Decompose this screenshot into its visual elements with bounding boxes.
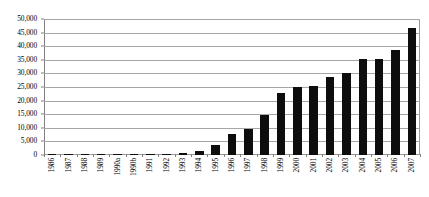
y-axis-tick-label: 45,000: [17, 29, 37, 36]
x-axis-tick-label: 1987: [65, 158, 72, 172]
x-axis-tick: [322, 154, 323, 157]
x-axis-tick-label: 1986: [48, 158, 55, 172]
y-axis-tick-label: 5,000: [21, 138, 37, 145]
x-axis-tick: [109, 154, 110, 157]
x-axis-tick-label: 1989: [97, 158, 104, 172]
y-axis-tick-label: 25,000: [17, 83, 37, 90]
bar: [359, 59, 368, 155]
x-axis-tick-label: 1994: [195, 158, 202, 172]
x-axis-tick: [142, 154, 143, 157]
y-axis-tick-label: 50,000: [17, 15, 37, 22]
y-axis-tick-label: 10,000: [17, 124, 37, 131]
y-axis-tick-label: 15,000: [17, 110, 37, 117]
x-axis-tick-label: 1998: [261, 158, 268, 172]
x-axis-tick: [224, 154, 225, 157]
x-axis-tick-label: 1988: [81, 158, 88, 172]
bar: [408, 28, 417, 155]
x-axis-tick-label: 1990b: [130, 158, 137, 176]
x-axis-tick: [371, 154, 372, 157]
x-axis-tick: [404, 154, 405, 157]
x-axis-tick: [306, 154, 307, 157]
x-axis-tick: [420, 154, 421, 157]
x-axis-tick: [60, 154, 61, 157]
bar: [228, 134, 237, 155]
x-axis-tick-label: 2004: [359, 158, 366, 172]
bar: [244, 129, 253, 155]
x-axis-tick-label: 2003: [342, 158, 349, 172]
x-axis-labels: 19861987198819891990a1990b19911992199319…: [44, 158, 420, 197]
bar: [293, 87, 302, 155]
y-axis-tick-label: 20,000: [17, 97, 37, 104]
x-axis-tick: [289, 154, 290, 157]
y-axis-labels: 50,00045,00040,00035,00030,00025,00020,0…: [0, 0, 44, 197]
x-axis-tick: [77, 154, 78, 157]
x-axis-tick-label: 1991: [146, 158, 153, 172]
x-axis-tick-label: 1996: [228, 158, 235, 172]
y-axis-tick-label: 30,000: [17, 70, 37, 77]
x-axis-tick: [44, 154, 45, 157]
bar-chart: 50,00045,00040,00035,00030,00025,00020,0…: [0, 0, 429, 197]
x-axis-tick: [387, 154, 388, 157]
x-axis-tick: [191, 154, 192, 157]
x-axis-tick-label: 2005: [375, 158, 382, 172]
x-axis-tick-label: 2001: [310, 158, 317, 172]
bar: [309, 86, 318, 155]
y-axis-tick-label: 0: [33, 151, 37, 158]
x-axis-tick-label: 1990a: [114, 158, 121, 176]
x-axis-tick: [207, 154, 208, 157]
x-axis-tick-label: 2000: [293, 158, 300, 172]
x-axis-tick: [338, 154, 339, 157]
bar: [277, 93, 286, 155]
x-axis-tick-label: 1995: [212, 158, 219, 172]
y-axis-tick-label: 35,000: [17, 56, 37, 63]
bar: [326, 77, 335, 155]
x-axis-tick: [355, 154, 356, 157]
x-axis-tick: [126, 154, 127, 157]
x-axis-tick-label: 2006: [391, 158, 398, 172]
bar: [391, 50, 400, 155]
x-axis-tick-label: 1993: [179, 158, 186, 172]
bar: [260, 115, 269, 155]
x-axis-tick-label: 1999: [277, 158, 284, 172]
x-axis-tick: [273, 154, 274, 157]
x-axis-tick-label: 2007: [408, 158, 415, 172]
x-axis-tick: [175, 154, 176, 157]
x-axis-tick-label: 2002: [326, 158, 333, 172]
x-axis-tick-label: 1992: [163, 158, 170, 172]
x-axis-tick: [240, 154, 241, 157]
x-axis-tick: [257, 154, 258, 157]
y-axis-tick-label: 40,000: [17, 42, 37, 49]
bar: [375, 59, 384, 155]
x-axis-tick: [93, 154, 94, 157]
bar: [342, 73, 351, 155]
x-axis-tick-label: 1997: [244, 158, 251, 172]
x-axis-tick: [158, 154, 159, 157]
bars-layer: [44, 19, 420, 155]
